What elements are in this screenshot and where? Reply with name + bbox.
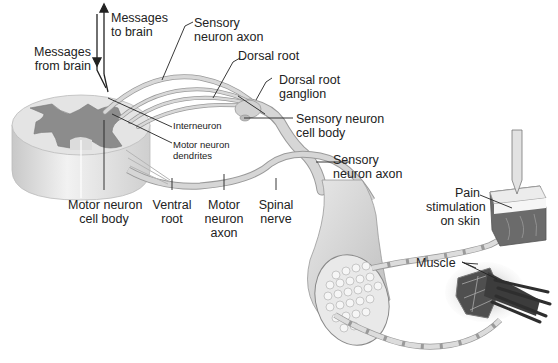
label-line: Sensory	[194, 16, 264, 30]
pain-needle	[512, 130, 522, 194]
label-line: Ventral	[150, 198, 194, 212]
label-line: dendrites	[173, 151, 230, 162]
label-spinal-nerve: Spinal nerve	[254, 198, 298, 226]
label-line: Sensory	[333, 153, 403, 167]
label-messages-from-brain: Messages from brain	[34, 45, 91, 73]
muscle-bundle	[445, 262, 550, 322]
label-line: root	[150, 212, 194, 226]
label-line: Spinal	[254, 198, 298, 212]
label-interneuron: Interneuron	[173, 121, 222, 132]
label-line: Motor neuron	[68, 198, 140, 212]
reflex-arc-diagram: Messages to brain Messages from brain Se…	[0, 0, 558, 363]
label-line: Sensory neuron	[296, 112, 384, 126]
label-line: cell body	[296, 126, 384, 140]
label-line: Motor	[202, 198, 246, 212]
label-line: neuron axon	[333, 167, 403, 181]
label-line: cell body	[68, 212, 140, 226]
label-messages-to-brain: Messages to brain	[111, 11, 168, 39]
label-line: Dorsal root	[238, 49, 299, 63]
label-line: Interneuron	[173, 121, 222, 132]
label-line: Messages	[111, 11, 168, 25]
label-line: axon	[202, 226, 246, 240]
label-motor-neuron-axon: Motor neuron axon	[202, 198, 246, 240]
label-dorsal-root: Dorsal root	[238, 49, 299, 63]
label-line: neuron axon	[194, 30, 264, 44]
message-arrows	[93, 4, 108, 92]
label-dorsal-root-ganglion: Dorsal root ganglion	[279, 73, 340, 101]
label-sensory-neuron-axon-top: Sensory neuron axon	[194, 16, 264, 44]
label-sensory-neuron-axon-mid: Sensory neuron axon	[333, 153, 403, 181]
label-line: from brain	[34, 59, 91, 73]
label-motor-neuron-dendrites: Motor neuron dendrites	[173, 140, 230, 161]
skin-block	[490, 186, 546, 246]
label-pain-stimulation: Pain stimulation on skin	[426, 186, 480, 228]
label-line: Messages	[34, 45, 91, 59]
label-line: Dorsal root	[279, 73, 340, 87]
label-motor-neuron-cell-body: Motor neuron cell body	[68, 198, 140, 226]
label-line: Pain	[426, 186, 480, 200]
label-line: neuron	[202, 212, 246, 226]
label-sensory-neuron-cell-body: Sensory neuron cell body	[296, 112, 384, 140]
label-line: ganglion	[279, 87, 340, 101]
label-line: stimulation	[426, 200, 480, 214]
label-line: on skin	[426, 214, 480, 228]
label-ventral-root: Ventral root	[150, 198, 194, 226]
label-line: nerve	[254, 212, 298, 226]
label-line: to brain	[111, 25, 168, 39]
label-muscle: Muscle	[416, 256, 456, 270]
label-line: Muscle	[416, 256, 456, 270]
